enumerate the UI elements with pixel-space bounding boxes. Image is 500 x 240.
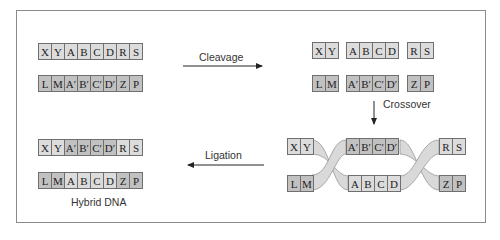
segment: L: [287, 175, 301, 192]
stage2-strand1-right: R S: [407, 42, 434, 59]
segment: D: [385, 42, 399, 59]
stage2-strand2-left: L M: [312, 75, 339, 92]
segment: C′: [90, 139, 104, 156]
stage3-top-left: X Y: [287, 138, 314, 155]
segment: R: [116, 139, 130, 156]
segment: C: [372, 42, 386, 59]
segment: A′: [346, 75, 360, 92]
stage3-top-mid: A′ B′ C′ D′: [346, 138, 399, 155]
segment: P: [452, 175, 466, 192]
stage1-strand2: L M A′ B′ C′ D′ Z P: [38, 75, 143, 92]
segment: Z: [116, 75, 130, 92]
segment: P: [129, 75, 143, 92]
segment: L: [38, 172, 52, 189]
segment: B′: [359, 75, 373, 92]
hybrid-strand2: L M A B C D Z P: [38, 172, 143, 189]
segment: D: [387, 175, 401, 192]
segment: Z: [407, 75, 421, 92]
stage3-bottom-right: Z P: [439, 175, 466, 192]
segment: L: [312, 75, 326, 92]
segment: Y: [51, 43, 65, 60]
segment: Y: [325, 42, 339, 59]
segment: B: [77, 172, 91, 189]
cleavage-label: Cleavage: [199, 51, 243, 63]
stage3-bottom-mid: A B C D: [348, 175, 401, 192]
segment: P: [129, 172, 143, 189]
hybrid-strand1: X Y A′ B′ C′ D′ R S: [38, 139, 143, 156]
segment: R: [407, 42, 421, 59]
segment: S: [420, 42, 434, 59]
segment: A: [64, 172, 78, 189]
segment: Y: [51, 139, 65, 156]
stage2-strand2-mid: A′ B′ C′ D′: [346, 75, 399, 92]
segment: A′: [64, 139, 78, 156]
segment: S: [129, 139, 143, 156]
segment: C: [374, 175, 388, 192]
segment: X: [312, 42, 326, 59]
segment: A: [346, 42, 360, 59]
segment: C′: [372, 75, 386, 92]
segment: R: [439, 138, 453, 155]
segment: M: [51, 75, 65, 92]
stage1-strand1: X Y A B C D R S: [38, 43, 143, 60]
segment: A: [348, 175, 362, 192]
segment: D′: [385, 75, 399, 92]
segment: A: [64, 43, 78, 60]
segment: B: [77, 43, 91, 60]
hybrid-dna-caption: Hybrid DNA: [71, 196, 126, 208]
segment: P: [420, 75, 434, 92]
segment: M: [300, 175, 314, 192]
segment: D′: [103, 75, 117, 92]
stage3-top-right: R S: [439, 138, 466, 155]
segment: D: [103, 43, 117, 60]
stage3-bottom-left: L M: [287, 175, 314, 192]
segment: B′: [359, 138, 373, 155]
segment: B′: [77, 75, 91, 92]
segment: C′: [372, 138, 386, 155]
segment: M: [325, 75, 339, 92]
ligation-label: Ligation: [205, 149, 242, 161]
segment: B′: [77, 139, 91, 156]
segment: D′: [385, 138, 399, 155]
stage2-strand2-right: Z P: [407, 75, 434, 92]
segment: X: [38, 139, 52, 156]
segment: Y: [300, 138, 314, 155]
segment: A′: [64, 75, 78, 92]
segment: S: [452, 138, 466, 155]
segment: D: [103, 172, 117, 189]
segment: R: [116, 43, 130, 60]
crossover-label: Crossover: [383, 98, 431, 110]
segment: Z: [439, 175, 453, 192]
segment: Z: [116, 172, 130, 189]
segment: C′: [90, 75, 104, 92]
segment: M: [51, 172, 65, 189]
segment: A′: [346, 138, 360, 155]
segment: C: [90, 172, 104, 189]
segment: B: [359, 42, 373, 59]
stage2-strand1-left: X Y: [312, 42, 339, 59]
segment: S: [129, 43, 143, 60]
segment: B: [361, 175, 375, 192]
segment: C: [90, 43, 104, 60]
segment: D′: [103, 139, 117, 156]
segment: X: [287, 138, 301, 155]
stage2-strand1-mid: A B C D: [346, 42, 399, 59]
segment: L: [38, 75, 52, 92]
segment: X: [38, 43, 52, 60]
